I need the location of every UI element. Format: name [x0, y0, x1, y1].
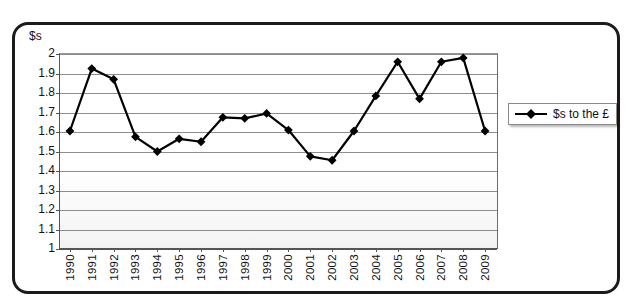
y-axis-title: $s: [29, 29, 42, 43]
series-line: [70, 58, 485, 160]
chart-frame: $s 21.91.81.71.61.51.41.31.21.11 1990199…: [12, 22, 620, 294]
y-axis-tick-label: 1.5: [38, 144, 55, 158]
x-axis-tick-mark: [267, 248, 268, 252]
x-axis-tick-label: 1991: [86, 254, 98, 281]
x-axis-tick-label: 2005: [392, 254, 404, 281]
x-axis-tick-label: 1992: [108, 254, 120, 281]
x-axis-tick-label: 1997: [217, 254, 229, 281]
data-point-marker: [481, 127, 490, 136]
x-axis-tick-mark: [201, 248, 202, 252]
x-axis-tick-label: 1990: [64, 254, 76, 281]
y-axis-tick-label: 2: [48, 46, 55, 60]
x-axis-tick-label: 2000: [282, 254, 294, 281]
x-axis-tick-label: 1995: [173, 254, 185, 281]
x-axis-tick-mark: [463, 248, 464, 252]
x-axis-tick-label: 1998: [239, 254, 251, 281]
x-axis-tick-label: 2008: [457, 254, 469, 281]
x-axis-tick-label: 2009: [479, 254, 491, 281]
y-axis-tick-label: 1.3: [38, 183, 55, 197]
x-axis-tick-mark: [114, 248, 115, 252]
x-axis-tick-mark: [485, 248, 486, 252]
x-axis-tick-mark: [223, 248, 224, 252]
y-axis-tick-label: 1.9: [38, 66, 55, 80]
y-axis-tick-label: 1.1: [38, 222, 55, 236]
x-axis-tick-label: 1999: [261, 254, 273, 281]
x-axis-tick-mark: [310, 248, 311, 252]
y-axis-tick-label: 1.6: [38, 124, 55, 138]
x-axis-tick-mark: [288, 248, 289, 252]
x-axis-tick-label: 2002: [326, 254, 338, 281]
data-point-marker: [109, 75, 118, 84]
x-axis-tick-mark: [157, 248, 158, 252]
x-axis-tick-mark: [441, 248, 442, 252]
x-axis-tick-label: 2004: [370, 254, 382, 281]
x-axis-tick-mark: [376, 248, 377, 252]
y-axis-tick-label: 1.7: [38, 105, 55, 119]
data-point-marker: [240, 114, 249, 123]
x-axis-tick-mark: [420, 248, 421, 252]
x-axis-tick-mark: [92, 248, 93, 252]
x-axis-tick-label: 1994: [151, 254, 163, 281]
x-axis-tick-label: 1993: [129, 254, 141, 281]
x-axis-tick-mark: [398, 248, 399, 252]
x-axis-tick-mark: [354, 248, 355, 252]
x-axis-tick-label: 1996: [195, 254, 207, 281]
series-line-chart: [59, 53, 496, 248]
data-point-marker: [87, 64, 96, 73]
diamond-marker-icon: [514, 108, 548, 120]
y-axis-tick-label: 1.4: [38, 163, 55, 177]
x-axis-line: [59, 248, 497, 250]
data-point-marker: [175, 134, 184, 143]
x-axis-tick-label: 2003: [348, 254, 360, 281]
x-axis-tick-label: 2007: [435, 254, 447, 281]
legend-entry-label: $s to the £: [553, 108, 609, 120]
chart-legend[interactable]: $s to the £: [508, 103, 617, 125]
x-axis-tick-mark: [135, 248, 136, 252]
y-axis-tick-label: 1: [48, 241, 55, 255]
x-axis-tick-mark: [245, 248, 246, 252]
y-axis-tick-labels: 21.91.81.71.61.51.41.31.21.11: [15, 53, 55, 248]
x-axis-tick-mark: [179, 248, 180, 252]
x-axis-tick-label: 2006: [414, 254, 426, 281]
x-axis-tick-mark: [70, 248, 71, 252]
x-axis-tick-label: 2001: [304, 254, 316, 281]
y-axis-tick-label: 1.8: [38, 85, 55, 99]
y-axis-tick-label: 1.2: [38, 202, 55, 216]
data-point-marker: [459, 53, 468, 62]
x-axis-tick-mark: [332, 248, 333, 252]
data-point-marker: [66, 127, 75, 136]
